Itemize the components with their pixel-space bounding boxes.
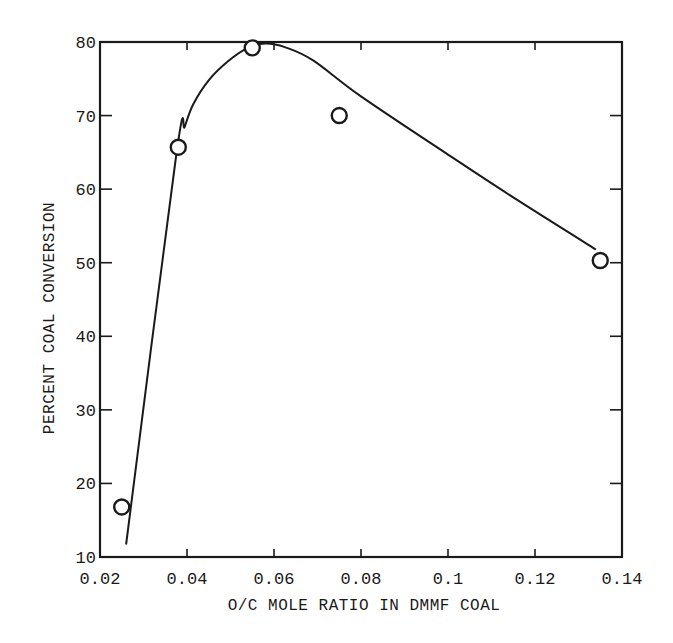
y-axis-title: PERCENT COAL CONVERSION xyxy=(41,202,59,434)
line-chart: 0.020.040.060.080.10.120.14 102030405060… xyxy=(0,0,673,643)
x-tick-label: 0.06 xyxy=(254,570,295,589)
data-point-marker xyxy=(245,40,260,55)
data-point-marker xyxy=(114,499,129,514)
x-tick-label: 0.08 xyxy=(341,570,382,589)
x-tick-label: 0.14 xyxy=(602,570,643,589)
plot-frame xyxy=(100,42,622,557)
y-tick-label: 40 xyxy=(76,328,96,347)
y-tick-label: 30 xyxy=(76,402,96,421)
chart-container: 0.020.040.060.080.10.120.14 102030405060… xyxy=(0,0,673,643)
data-points xyxy=(114,40,608,514)
y-tick-label: 20 xyxy=(76,475,96,494)
x-tick-label: 0.12 xyxy=(515,570,556,589)
plot-border xyxy=(100,42,622,557)
y-tick-label: 50 xyxy=(76,255,96,274)
y-tick-label: 70 xyxy=(76,108,96,127)
y-tick-label: 60 xyxy=(76,181,96,200)
x-tick-label: 0.1 xyxy=(433,570,464,589)
y-tick-label: 80 xyxy=(76,34,96,53)
x-tick-label: 0.04 xyxy=(167,570,208,589)
y-tick-label: 10 xyxy=(76,549,96,568)
x-tick-label: 0.02 xyxy=(80,570,121,589)
data-point-marker xyxy=(332,108,347,123)
x-axis: 0.020.040.060.080.10.120.14 xyxy=(80,42,643,589)
data-point-marker xyxy=(593,253,608,268)
data-point-marker xyxy=(171,140,186,155)
curve-path xyxy=(126,43,596,544)
x-axis-title: O/C MOLE RATIO IN DMMF COAL xyxy=(228,597,501,615)
fitted-curve xyxy=(126,43,596,544)
